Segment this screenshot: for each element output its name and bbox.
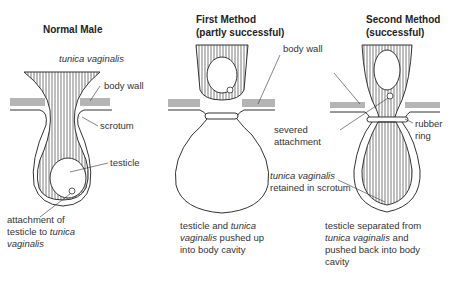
caption-first-method: testicle and tunica vaginalis pushed up … bbox=[180, 220, 264, 256]
label-tunica-retained-line2: retained in scrotum bbox=[270, 182, 351, 194]
normal-male-figure bbox=[10, 72, 112, 217]
caption-second-line4: cavity bbox=[325, 256, 421, 268]
label-scrotum: scrotum bbox=[100, 120, 134, 132]
body-wall-left bbox=[10, 99, 45, 105]
label-rubber-ring: rubber ring bbox=[415, 118, 442, 142]
label-rubber-line2: ring bbox=[415, 130, 442, 142]
label-severed-line1: severed bbox=[274, 124, 321, 136]
caption-second-line2: tunica vaginalis and bbox=[325, 232, 421, 244]
label-attachment: attachment of testicle to tunica vaginal… bbox=[7, 214, 75, 250]
label-body-wall-1: body wall bbox=[104, 80, 144, 92]
label-attachment-line2: testicle to tunica bbox=[7, 226, 75, 238]
rubber-ring-1 bbox=[205, 113, 238, 119]
caption-first-line2: vaginalis pushed up bbox=[180, 232, 264, 244]
title-second-method-line2: (successful) bbox=[366, 26, 416, 39]
caption-second-text: and bbox=[390, 232, 409, 243]
label-testicle: testicle bbox=[110, 157, 140, 169]
caption-second-italic: tunica vaginalis bbox=[325, 232, 390, 243]
label-attachment-italic: tunica bbox=[50, 226, 75, 237]
label-attachment-line3: vaginalis bbox=[7, 238, 75, 250]
label-body-wall-2: body wall bbox=[283, 43, 323, 55]
caption-first-text-2: pushed up bbox=[217, 232, 264, 243]
caption-second-line3: pushed back into body bbox=[325, 244, 421, 256]
title-first-method: First Method (partly successful) bbox=[196, 13, 256, 39]
caption-first-line1: testicle and tunica bbox=[180, 220, 264, 232]
caption-second-method: testicle separated from tunica vaginalis… bbox=[325, 220, 421, 268]
caption-first-italic-2: vaginalis bbox=[180, 232, 217, 243]
caption-second-line1: testicle separated from bbox=[325, 220, 421, 232]
label-rubber-line1: rubber bbox=[415, 118, 442, 130]
caption-first-text: testicle and bbox=[180, 220, 231, 231]
title-first-method-line1: First Method bbox=[196, 13, 256, 26]
title-first-method-line2: (partly successful) bbox=[196, 26, 256, 39]
title-normal-male: Normal Male bbox=[43, 23, 102, 36]
body-wall-right bbox=[80, 99, 110, 105]
label-severed-line2: attachment bbox=[274, 136, 321, 148]
caption-first-italic: tunica bbox=[231, 220, 256, 231]
label-attachment-text: testicle to bbox=[7, 226, 50, 237]
label-tunica-retained: tunica vaginalis retained in scrotum bbox=[270, 170, 351, 194]
caption-first-line3: into body cavity bbox=[180, 244, 264, 256]
first-method-figure bbox=[168, 45, 280, 213]
label-severed-attachment: severed attachment bbox=[274, 124, 321, 148]
label-tunica-retained-line1: tunica vaginalis bbox=[270, 170, 351, 182]
title-second-method: Second Method (successful) bbox=[366, 13, 416, 39]
label-tunica-vaginalis: tunica vaginalis bbox=[59, 53, 124, 65]
title-second-method-line1: Second Method bbox=[366, 13, 416, 26]
rubber-ring-2 bbox=[367, 117, 408, 122]
label-attachment-line1: attachment of bbox=[7, 214, 75, 226]
